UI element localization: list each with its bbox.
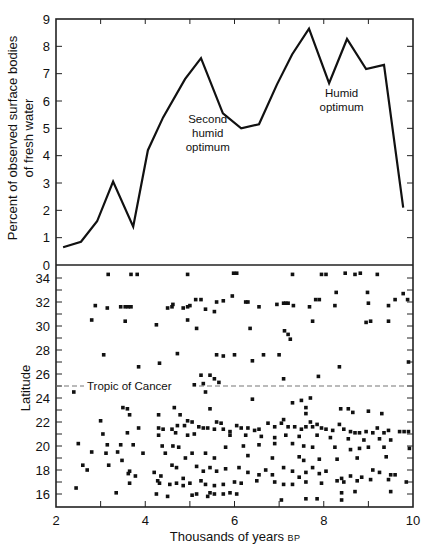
scatter-point <box>181 306 185 310</box>
scatter-point <box>72 390 76 394</box>
scatter-point <box>248 327 252 331</box>
scatter-point <box>215 420 219 424</box>
y-tick-label-upper: 9 <box>43 12 50 27</box>
scatter-point <box>152 471 156 475</box>
scatter-point <box>297 455 301 459</box>
scatter-point <box>257 473 261 477</box>
scatter-point <box>128 481 132 485</box>
scatter-point <box>387 429 391 433</box>
scatter-point <box>387 304 391 308</box>
scatter-point <box>158 481 162 485</box>
scatter-point <box>204 483 208 487</box>
scatter-point <box>353 431 357 435</box>
scatter-point <box>273 436 277 440</box>
scatter-point <box>286 425 290 429</box>
scatter-point <box>355 479 359 483</box>
scatter-point <box>213 427 217 431</box>
scatter-point <box>186 273 190 277</box>
latitude-scatter-panel: 16182022242628303234Tropic of Cancer <box>36 271 413 502</box>
scatter-point <box>193 383 197 387</box>
scatter-point <box>282 483 286 487</box>
scatter-point <box>297 475 301 479</box>
scatter-point <box>202 426 206 430</box>
scatter-point <box>74 486 78 490</box>
scatter-point <box>99 419 103 423</box>
shared-x-axis: 246810 <box>52 501 420 528</box>
scatter-point <box>297 435 301 439</box>
scatter-point <box>235 492 239 496</box>
scatter-point <box>320 273 324 277</box>
scatter-point <box>190 493 194 497</box>
fresh-water-line-panel: 0123456789SecondhumidoptimumHumidoptimum <box>43 12 413 508</box>
x-tick-label: 6 <box>231 513 238 528</box>
scatter-point <box>331 429 335 433</box>
scatter-point <box>195 492 199 496</box>
scatter-point <box>273 425 277 429</box>
scatter-point <box>353 273 357 277</box>
scatter-point <box>77 442 81 446</box>
scatter-point <box>315 497 319 501</box>
scatter-point <box>393 298 397 302</box>
y-tick-label-lower: 24 <box>36 391 50 406</box>
scatter-point <box>358 447 362 451</box>
scatter-point <box>123 319 127 323</box>
scatter-point <box>213 492 217 496</box>
scatter-point <box>277 353 281 357</box>
scatter-point <box>222 299 226 303</box>
scatter-point <box>304 480 308 484</box>
scatter-point <box>308 305 312 309</box>
scatter-point <box>170 463 174 467</box>
scatter-point <box>121 406 125 410</box>
scatter-point <box>233 480 237 484</box>
scatter-point <box>199 298 203 302</box>
scatter-point <box>339 407 343 411</box>
scatter-point <box>137 365 141 369</box>
scatter-point <box>235 424 239 428</box>
scatter-point <box>367 445 371 449</box>
y-tick-label-upper: 2 <box>43 203 50 218</box>
scatter-point <box>324 469 328 473</box>
scatter-point <box>340 477 344 481</box>
scatter-point <box>168 483 172 487</box>
scatter-point <box>406 298 410 302</box>
scatter-point <box>90 450 94 454</box>
scatter-point <box>389 438 393 442</box>
scatter-point <box>188 481 192 485</box>
scatter-point <box>257 443 261 447</box>
annotation-second-humid-optimum: optimum <box>186 141 230 153</box>
scatter-point <box>304 412 308 416</box>
y-axis-title-lower: Latitude <box>18 365 33 411</box>
scatter-point <box>271 473 275 477</box>
y-tick-label-lower: 20 <box>36 439 50 454</box>
scatter-point <box>134 474 138 478</box>
scatter-point <box>129 273 133 277</box>
scatter-point <box>224 467 228 471</box>
scatter-point <box>235 271 239 275</box>
scatter-point <box>195 465 199 469</box>
scatter-point <box>262 353 266 357</box>
scatter-point <box>271 456 275 460</box>
scatter-point <box>318 298 322 302</box>
y-tick-label-lower: 32 <box>36 295 50 310</box>
scatter-point <box>309 420 313 424</box>
bp-small-caps: BP <box>288 533 301 543</box>
scatter-point <box>291 401 295 405</box>
scatter-point <box>208 491 212 495</box>
scatter-point <box>160 444 164 448</box>
y-tick-label-lower: 30 <box>36 319 50 334</box>
scatter-point <box>304 406 308 410</box>
scatter-point <box>364 321 368 325</box>
scatter-point <box>384 455 388 459</box>
scatter-point <box>104 451 108 455</box>
scatter-point <box>251 359 255 363</box>
scatter-point <box>157 433 161 437</box>
scatter-point <box>175 466 179 470</box>
scatter-point <box>120 459 124 463</box>
scatter-point <box>94 304 98 308</box>
scatter-point <box>106 306 110 310</box>
scatter-point <box>382 431 386 435</box>
scatter-point <box>324 427 328 431</box>
scatter-point <box>284 433 288 437</box>
scatter-point <box>90 318 94 322</box>
scatter-point <box>335 457 339 461</box>
